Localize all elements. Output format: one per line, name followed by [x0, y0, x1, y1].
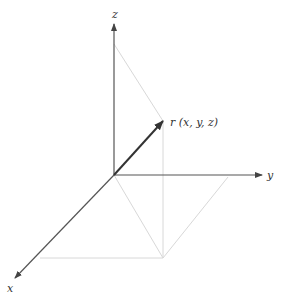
z-axis-label: z: [111, 8, 118, 21]
position-vector-r: [114, 121, 163, 175]
guide-base-to-y: [163, 177, 228, 258]
coordinate-diagram: z y x r (x, y, z): [0, 0, 282, 298]
guide-z-to-point: [114, 44, 163, 121]
x-axis: [15, 175, 114, 278]
vector-label: r (x, y, z): [170, 116, 218, 129]
y-axis-label: y: [266, 169, 274, 182]
x-axis-label: x: [7, 282, 14, 295]
guide-origin-to-base: [114, 175, 163, 258]
